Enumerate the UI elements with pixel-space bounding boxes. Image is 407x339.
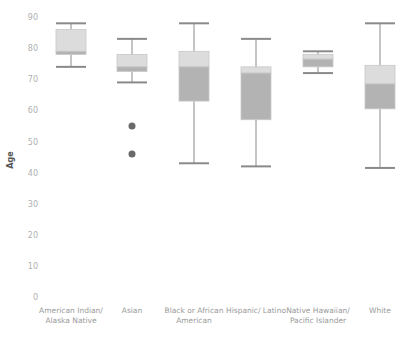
y-tick-label: 10 [28, 262, 38, 271]
x-axis-categories: American Indian/Alaska NativeAsianBlack … [39, 306, 391, 325]
lower-box [303, 59, 333, 67]
box-5 [365, 23, 395, 168]
upper-box [303, 54, 333, 59]
x-category-label: White [369, 306, 391, 315]
box-1 [117, 39, 147, 158]
y-tick-label: 40 [28, 169, 38, 178]
x-category-label: American Indian/ [39, 306, 103, 315]
lower-box [117, 67, 147, 72]
box-plot-series [56, 23, 395, 168]
y-tick-label: 70 [28, 75, 38, 84]
lower-box [179, 67, 209, 101]
y-tick-label: 90 [28, 13, 38, 22]
lower-box [241, 73, 271, 120]
upper-box [117, 54, 147, 66]
upper-box [241, 67, 271, 73]
y-tick-label: 30 [28, 200, 38, 209]
lower-box [365, 84, 395, 109]
box-2 [179, 23, 209, 163]
x-category-label: Hispanic/ Latino [226, 306, 286, 315]
upper-box [365, 65, 395, 84]
outlier-point [129, 150, 136, 157]
x-category-label: American [176, 316, 212, 325]
x-category-label: Asian [122, 306, 143, 315]
x-category-label: Alaska Native [45, 316, 97, 325]
x-category-label: Pacific Islander [290, 316, 347, 325]
upper-box [56, 30, 86, 52]
box-3 [241, 39, 271, 167]
lower-box [56, 51, 86, 54]
y-tick-label: 0 [33, 293, 38, 302]
outlier-point [129, 122, 136, 129]
y-axis: 0102030405060708090 [28, 13, 38, 302]
y-axis-label: Age [6, 151, 15, 169]
box-0 [56, 23, 86, 67]
x-category-label: Black or African [165, 306, 224, 315]
x-category-label: Native Hawaiian/ [286, 306, 350, 315]
box-4 [303, 51, 333, 73]
y-tick-label: 20 [28, 231, 38, 240]
box-plot-chart: 0102030405060708090 Age American Indian/… [0, 0, 407, 339]
y-tick-label: 50 [28, 138, 38, 147]
upper-box [179, 51, 209, 67]
y-tick-label: 80 [28, 44, 38, 53]
y-tick-label: 60 [28, 106, 38, 115]
